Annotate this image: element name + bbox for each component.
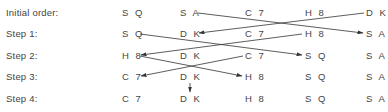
card: H 8: [305, 28, 326, 39]
card: S Q: [122, 28, 144, 39]
row-label-step-3: Step 3:: [6, 71, 38, 82]
card: S A: [366, 50, 387, 61]
card: D K: [180, 93, 202, 104]
swap-arrow-h8: [141, 34, 302, 55]
card: D K: [180, 28, 202, 39]
card: S A: [366, 71, 387, 82]
card: S A: [366, 28, 387, 39]
swap-arrow-dk: [199, 13, 364, 33]
card: S Q: [305, 50, 327, 61]
card: S A: [180, 7, 201, 18]
card: S Q: [305, 71, 327, 82]
card: C 7: [122, 71, 143, 82]
swap-arrow-sa: [198, 13, 363, 33]
card: S Q: [122, 7, 144, 18]
card: S A: [366, 93, 387, 104]
row-label-initial: Initial order:: [6, 7, 58, 18]
card: H 8: [305, 7, 326, 18]
card: C 7: [245, 28, 266, 39]
card: H 8: [245, 93, 266, 104]
card: S Q: [305, 93, 327, 104]
card: C 7: [245, 7, 266, 18]
swap-arrow-sq: [140, 34, 302, 55]
card: C 7: [245, 50, 266, 61]
card: H 8: [245, 71, 266, 82]
card: D K: [366, 7, 388, 18]
row-label-step-1: Step 1:: [6, 28, 38, 39]
row-label-step-4: Step 4:: [6, 93, 38, 104]
card: C 7: [122, 93, 143, 104]
card: D K: [180, 71, 202, 82]
card: H 8: [122, 50, 143, 61]
row-label-step-2: Step 2:: [6, 50, 38, 61]
card: D K: [180, 50, 202, 61]
